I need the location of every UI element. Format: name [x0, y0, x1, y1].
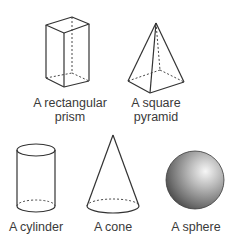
sphere-label-text: A sphere [158, 220, 234, 234]
pyramid-label: A square pyramid [116, 96, 196, 124]
cone-label-text: A cone [78, 220, 148, 234]
square-pyramid-figure [128, 23, 184, 93]
prism-label: A rectangular prism [30, 96, 110, 124]
pyramid-label-line1: A square [116, 96, 196, 110]
sphere-figure [166, 151, 224, 209]
rectangular-prism-figure [46, 17, 89, 87]
prism-label-line2: prism [30, 110, 110, 124]
cylinder-label: A cylinder [0, 220, 72, 234]
cylinder-label-text: A cylinder [0, 220, 72, 234]
sphere-label: A sphere [158, 220, 234, 234]
cone-figure [87, 135, 139, 213]
prism-label-line1: A rectangular [30, 96, 110, 110]
cylinder-figure [17, 144, 55, 212]
cone-label: A cone [78, 220, 148, 234]
pyramid-label-line2: pyramid [116, 110, 196, 124]
